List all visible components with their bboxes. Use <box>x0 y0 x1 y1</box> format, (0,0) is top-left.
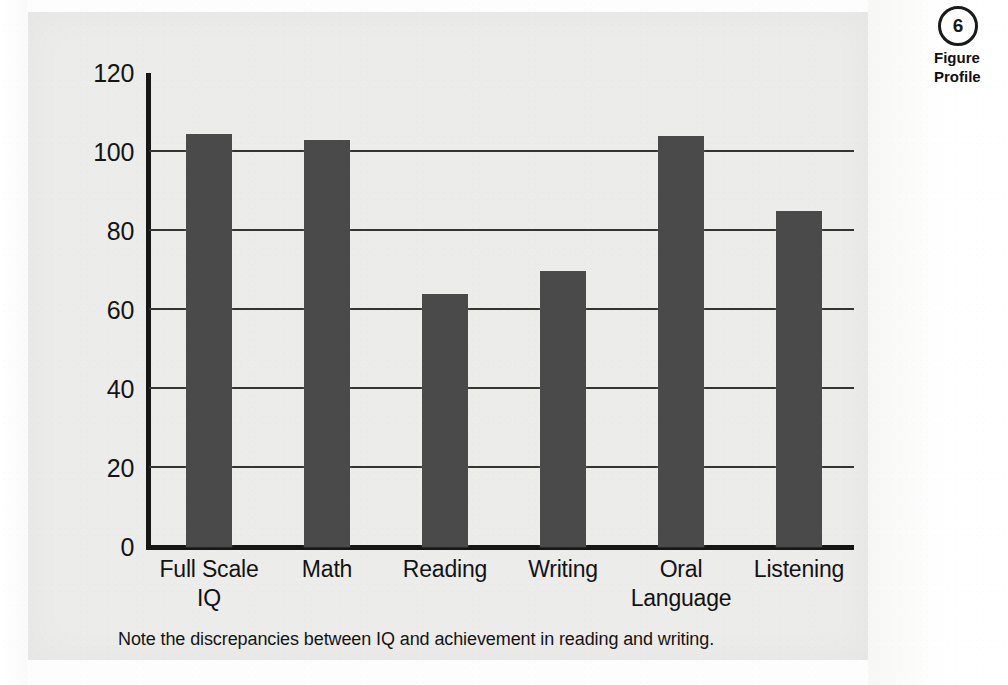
gridline-40 <box>149 387 854 389</box>
x-axis-line <box>146 545 854 550</box>
bar-oral-language <box>658 136 704 547</box>
margin-figure-number-badge: 6 <box>938 6 978 46</box>
x-label-line: Language <box>591 584 771 613</box>
gridline-80 <box>149 229 854 231</box>
gridline-20 <box>149 466 854 468</box>
bar-reading <box>422 294 468 547</box>
figure-caption: Note the discrepancies between IQ and ac… <box>118 629 714 650</box>
y-axis-line <box>146 73 151 550</box>
scanned-page: 020406080100120 Full ScaleIQMathReadingW… <box>0 0 1008 685</box>
y-tick-label-80: 80 <box>107 217 134 246</box>
margin-note-line-1: Figure <box>934 48 1008 67</box>
gridline-100 <box>149 150 854 152</box>
x-label-line: Listening <box>709 555 889 584</box>
x-axis-category-labels: Full ScaleIQMathReadingWritingOralLangua… <box>146 555 854 625</box>
x-label-line: IQ <box>119 584 299 613</box>
y-tick-label-120: 120 <box>93 59 134 88</box>
bar-chart: 020406080100120 Full ScaleIQMathReadingW… <box>28 12 868 660</box>
gridline-60 <box>149 308 854 310</box>
margin-note-line-2: Profile <box>934 67 1008 86</box>
y-tick-label-20: 20 <box>107 454 134 483</box>
y-tick-label-60: 60 <box>107 296 134 325</box>
y-tick-label-40: 40 <box>107 375 134 404</box>
bar-math <box>304 140 350 547</box>
page-left-edge <box>0 0 28 685</box>
bar-full-scale-iq <box>186 134 232 547</box>
bar-listening <box>776 211 822 547</box>
plot-area: 020406080100120 <box>146 73 854 550</box>
margin-note: Figure Profile <box>934 48 1008 86</box>
y-tick-label-100: 100 <box>93 138 134 167</box>
bar-writing <box>540 271 586 548</box>
x-label-listening: Listening <box>709 555 889 584</box>
page-right-margin <box>868 0 1008 685</box>
